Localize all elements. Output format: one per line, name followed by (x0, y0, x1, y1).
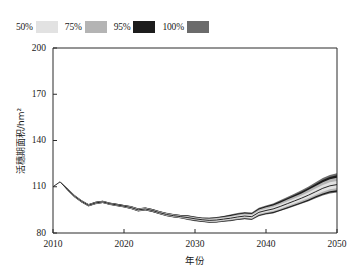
y-tick-label-110: 110 (32, 181, 46, 191)
y-tick-label-140: 140 (32, 135, 47, 145)
y-axis-title: 活穗期面积/hm² (15, 108, 26, 175)
x-axis-tick-labels: 2010 2020 2030 2040 2050 (44, 239, 347, 249)
x-tick-label-2050: 2050 (328, 239, 347, 249)
x-axis-ticks (53, 229, 337, 233)
x-tick-label-2040: 2040 (257, 239, 276, 249)
chart-svg: 200 170 140 110 80 2010 2020 2030 2040 2… (0, 0, 364, 280)
x-tick-label-2020: 2020 (115, 239, 134, 249)
y-axis-ticks (53, 48, 57, 233)
x-tick-label-2010: 2010 (44, 239, 63, 249)
uncertainty-bands (53, 173, 337, 223)
x-axis-title: 年份 (185, 255, 205, 266)
y-tick-label-80: 80 (37, 228, 47, 238)
y-tick-label-170: 170 (32, 89, 47, 99)
chart-figure: 50% 75% 95% 100% (0, 0, 364, 280)
y-axis-tick-labels: 200 170 140 110 80 (32, 43, 47, 238)
plot-area: 200 170 140 110 80 2010 2020 2030 2040 2… (0, 0, 364, 280)
y-tick-label-200: 200 (32, 43, 47, 53)
x-tick-label-2030: 2030 (186, 239, 205, 249)
median-line (53, 182, 337, 221)
